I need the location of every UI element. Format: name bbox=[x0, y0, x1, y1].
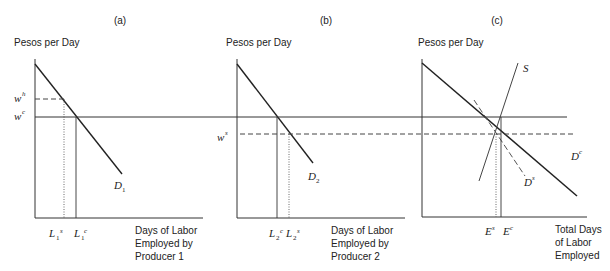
svg-text:c: c bbox=[84, 227, 88, 235]
svg-text:Days of Labor: Days of Labor bbox=[331, 225, 394, 236]
svg-text:s: s bbox=[532, 174, 535, 182]
svg-text:w: w bbox=[14, 92, 22, 104]
svg-text:h: h bbox=[22, 90, 26, 98]
svg-text:c: c bbox=[280, 227, 284, 235]
svg-text:Employed: Employed bbox=[555, 250, 599, 261]
svg-text:L: L bbox=[48, 227, 55, 239]
svg-text:1: 1 bbox=[122, 186, 126, 194]
panel-b-y-axis-label: Pesos per Day bbox=[226, 37, 292, 48]
svg-text:E: E bbox=[502, 225, 510, 237]
panel-c-title: (c) bbox=[491, 15, 503, 26]
svg-text:w: w bbox=[217, 131, 225, 143]
panel-c-x-axis-label: Total Days of Labor Employed bbox=[555, 224, 602, 261]
svg-text:Employed by: Employed by bbox=[331, 238, 389, 249]
panel-b-demand-curve bbox=[237, 64, 313, 163]
panel-c-Dc-label: D c bbox=[570, 148, 583, 162]
svg-text:E: E bbox=[484, 225, 492, 237]
panel-a: (a) Pesos per Day w h w c D 1 L 1 s bbox=[14, 15, 203, 262]
svg-text:of Labor: of Labor bbox=[555, 237, 592, 248]
svg-text:Producer 2: Producer 2 bbox=[331, 251, 380, 262]
panel-a-x-axis-label: Days of Labor Employed by Producer 1 bbox=[135, 225, 198, 262]
panel-b-D2-label: D 2 bbox=[307, 170, 320, 185]
panel-c-Ec-label: E c bbox=[502, 224, 514, 237]
panel-b-L2s-label: L 2 s bbox=[285, 227, 300, 242]
svg-text:L: L bbox=[268, 227, 275, 239]
panel-c-Dc-curve bbox=[422, 63, 577, 196]
svg-text:D: D bbox=[113, 179, 122, 191]
svg-text:1: 1 bbox=[81, 234, 85, 242]
svg-text:2: 2 bbox=[293, 234, 297, 242]
svg-text:1: 1 bbox=[56, 234, 60, 242]
svg-text:s: s bbox=[225, 129, 228, 137]
panel-c: (c) Pesos per Day S D c D s E s E c bbox=[418, 15, 602, 261]
svg-text:s: s bbox=[492, 224, 495, 232]
svg-text:L: L bbox=[73, 227, 80, 239]
svg-text:D: D bbox=[307, 170, 316, 182]
panel-b-L2c-label: L 2 c bbox=[268, 227, 284, 242]
panel-c-Es-label: E s bbox=[484, 224, 495, 237]
svg-text:c: c bbox=[579, 148, 583, 156]
panel-a-L1c-label: L 1 c bbox=[73, 227, 88, 242]
panel-b-x-axis-label: Days of Labor Employed by Producer 2 bbox=[331, 225, 394, 262]
panel-a-wh-label: w h bbox=[14, 90, 26, 104]
svg-text:Total Days: Total Days bbox=[555, 224, 602, 235]
panel-c-Ds-curve bbox=[474, 100, 525, 176]
svg-text:L: L bbox=[285, 227, 292, 239]
svg-text:c: c bbox=[510, 224, 514, 232]
svg-text:s: s bbox=[297, 227, 300, 235]
svg-text:c: c bbox=[22, 108, 26, 116]
panel-b-title: (b) bbox=[320, 15, 332, 26]
svg-text:D: D bbox=[523, 176, 532, 188]
svg-text:Producer 1: Producer 1 bbox=[135, 251, 184, 262]
panel-c-Ds-label: D s bbox=[523, 174, 535, 188]
panel-c-S-label: S bbox=[523, 62, 529, 74]
panel-a-demand-curve bbox=[35, 64, 122, 174]
svg-text:Days of Labor: Days of Labor bbox=[135, 225, 198, 236]
svg-text:w: w bbox=[14, 110, 22, 122]
panel-a-wc-label: w c bbox=[14, 108, 26, 122]
panel-a-y-axis-label: Pesos per Day bbox=[14, 37, 80, 48]
panel-c-y-axis-label: Pesos per Day bbox=[418, 37, 484, 48]
panel-b: (b) Pesos per Day w s D 2 L 2 c L 2 s Da bbox=[217, 15, 405, 262]
labor-market-diagram: (a) Pesos per Day w h w c D 1 L 1 s bbox=[0, 0, 610, 271]
panel-b-ws-label: w s bbox=[217, 129, 228, 143]
panel-c-supply-curve bbox=[479, 63, 518, 181]
svg-text:D: D bbox=[570, 150, 579, 162]
svg-text:Employed by: Employed by bbox=[135, 238, 193, 249]
svg-text:2: 2 bbox=[276, 234, 280, 242]
svg-text:s: s bbox=[60, 227, 63, 235]
panel-a-L1s-label: L 1 s bbox=[48, 227, 63, 242]
svg-text:2: 2 bbox=[316, 177, 320, 185]
panel-a-title: (a) bbox=[114, 15, 126, 26]
panel-a-D1-label: D 1 bbox=[113, 179, 126, 194]
